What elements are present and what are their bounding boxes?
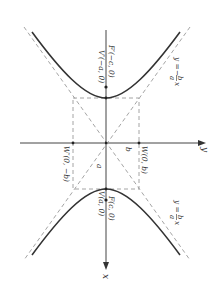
asymptote-lower-var: x	[173, 221, 182, 226]
label-w: W(0, b)	[140, 146, 149, 174]
asymptote-lower-den: a	[168, 215, 176, 219]
label-v-prime: V′(−a, 0)	[97, 50, 106, 83]
asymptote-upper-lhs: y =	[173, 56, 182, 70]
y-axis-arrow-icon	[198, 140, 206, 146]
label-v: V(a, 0)	[97, 191, 106, 216]
label-f: F(c, 0)	[107, 195, 116, 221]
segment-label-b: b	[124, 147, 133, 152]
label-f-prime: F′(−c, 0)	[107, 44, 116, 78]
vertex-v-point	[105, 188, 108, 191]
segment-label-a: a	[95, 164, 104, 168]
asymptote-equation-lower: y = b a x	[168, 199, 184, 226]
asymptote-upper-var: x	[173, 82, 182, 87]
asymptote-equation-upper: y = − b a x	[168, 56, 184, 87]
vertex-v-prime-point	[105, 97, 108, 100]
asymptote-lower-num: b	[176, 215, 184, 220]
x-axis-arrow-icon	[103, 262, 109, 270]
hyperbola-diagram: x y F′(−c, 0) V′(−a, 0) F(c, 0) V(a, 0) …	[0, 0, 212, 284]
point-w-prime	[72, 142, 75, 145]
asymptote-upper-num: b	[176, 76, 184, 81]
focus-f-prime-point	[104, 85, 107, 88]
y-axis-label: y	[200, 146, 210, 153]
x-axis-label: x	[101, 274, 111, 279]
point-w	[138, 142, 141, 145]
origin-point	[105, 142, 107, 144]
label-w-prime: W′(0, −b)	[62, 146, 71, 182]
asymptote-lower-lhs: y =	[173, 199, 182, 213]
asymptote-upper-den: a	[168, 76, 176, 80]
